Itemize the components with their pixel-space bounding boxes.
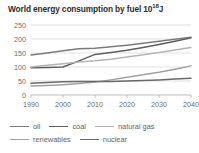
legend-item-natural-gas[interactable]: natural gas — [95, 122, 155, 131]
legend-swatch-oil — [10, 126, 29, 127]
y-axis-tick-label: 250 — [14, 21, 26, 30]
series-line-natural-gas — [31, 47, 191, 67]
legend-label: renewables — [33, 135, 71, 144]
legend-row: oilcoalnatural gas — [10, 120, 195, 133]
series-line-renewables — [31, 66, 191, 86]
legend-item-nuclear[interactable]: nuclear — [80, 135, 127, 144]
y-axis-tick-label: 0 — [22, 91, 26, 100]
x-axis-tick-label: 2020 — [119, 100, 135, 109]
energy-consumption-chart-card: World energy consumption by fuel 1018J 0… — [0, 0, 199, 153]
legend-label: oil — [33, 122, 40, 131]
legend-item-renewables[interactable]: renewables — [10, 135, 71, 144]
chart-plot-area: 050100150200250199020002010202020302040 — [0, 0, 199, 118]
x-axis-tick-label: 2000 — [55, 100, 71, 109]
y-axis-tick-label: 150 — [14, 49, 26, 58]
x-axis-tick-label: 1990 — [23, 100, 39, 109]
x-axis-tick-label: 2040 — [183, 100, 199, 109]
legend-item-oil[interactable]: oil — [10, 122, 40, 131]
legend-item-coal[interactable]: coal — [49, 122, 86, 131]
legend-label: coal — [72, 122, 86, 131]
y-axis-tick-label: 50 — [18, 77, 26, 86]
legend-swatch-natural-gas — [95, 126, 114, 127]
legend-swatch-nuclear — [80, 139, 99, 140]
x-axis-tick-label: 2030 — [151, 100, 167, 109]
legend-swatch-coal — [49, 126, 68, 127]
legend-label: natural gas — [118, 122, 155, 131]
legend-row: renewablesnuclear — [10, 133, 195, 146]
legend-label: nuclear — [103, 135, 127, 144]
legend-swatch-renewables — [10, 139, 29, 140]
y-axis-tick-label: 200 — [14, 35, 26, 44]
chart-legend: oilcoalnatural gasrenewablesnuclear — [10, 120, 195, 146]
y-axis-tick-label: 100 — [14, 63, 26, 72]
x-axis-tick-label: 2010 — [87, 100, 103, 109]
